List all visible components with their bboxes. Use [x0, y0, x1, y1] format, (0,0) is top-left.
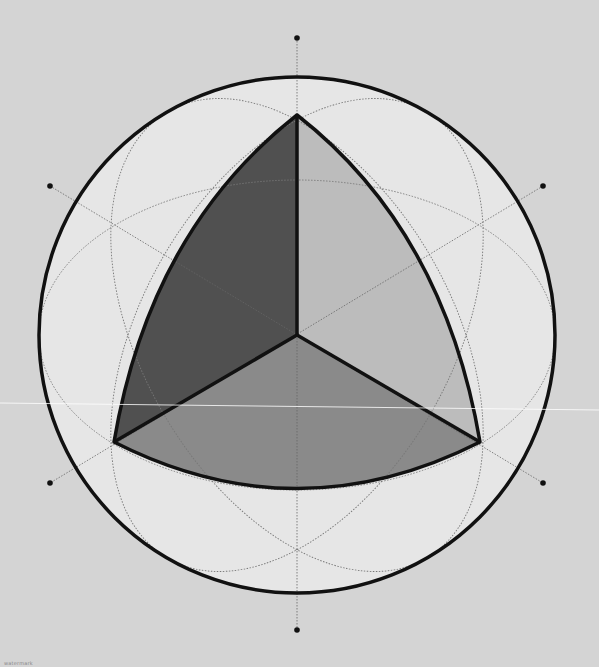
watermark-caption: watermark: [4, 660, 33, 666]
spherical-triangle-diagram: [0, 0, 599, 667]
